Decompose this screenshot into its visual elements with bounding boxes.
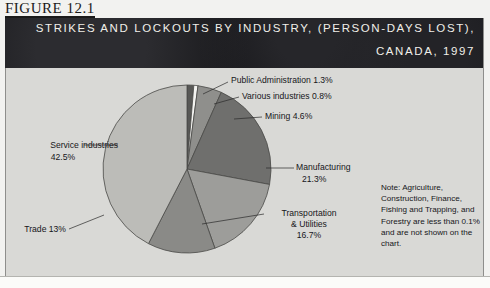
figure-title-band: STRIKES AND LOCKOUTS BY INDUSTRY, (PERSO…	[5, 18, 483, 68]
leader-line-trade	[69, 215, 104, 229]
figure-container: FIGURE 12.1 STRIKES AND LOCKOUTS BY INDU…	[0, 0, 490, 288]
label-public-administration: Public Administration 1.3%	[231, 75, 333, 86]
label-transportation-name: Transportation	[266, 208, 352, 219]
label-trade: Trade 13%	[6, 224, 66, 235]
chart-note: Note: Agriculture, Construction, Finance…	[381, 182, 485, 249]
label-various-industries: Various industries 0.8%	[242, 91, 332, 102]
figure-number: FIGURE 12.1	[5, 1, 95, 18]
label-service-industries-name: Service industries	[8, 140, 118, 151]
label-transportation-name2: & Utilities	[266, 219, 352, 230]
pie-slices	[103, 85, 271, 253]
figure-title-line-1: STRIKES AND LOCKOUTS BY INDUSTRY, (PERSO…	[36, 22, 475, 34]
figure-title-line-2: CANADA, 1997	[376, 45, 475, 57]
label-manufacturing-name: Manufacturing	[296, 162, 350, 173]
label-mining: Mining 4.6%	[265, 111, 312, 122]
label-transportation-value: 16.7%	[266, 230, 352, 241]
label-service-industries-value: 42.5%	[8, 152, 118, 163]
page-bottom-margin	[0, 277, 490, 288]
label-manufacturing-value: 21.3%	[302, 174, 326, 185]
